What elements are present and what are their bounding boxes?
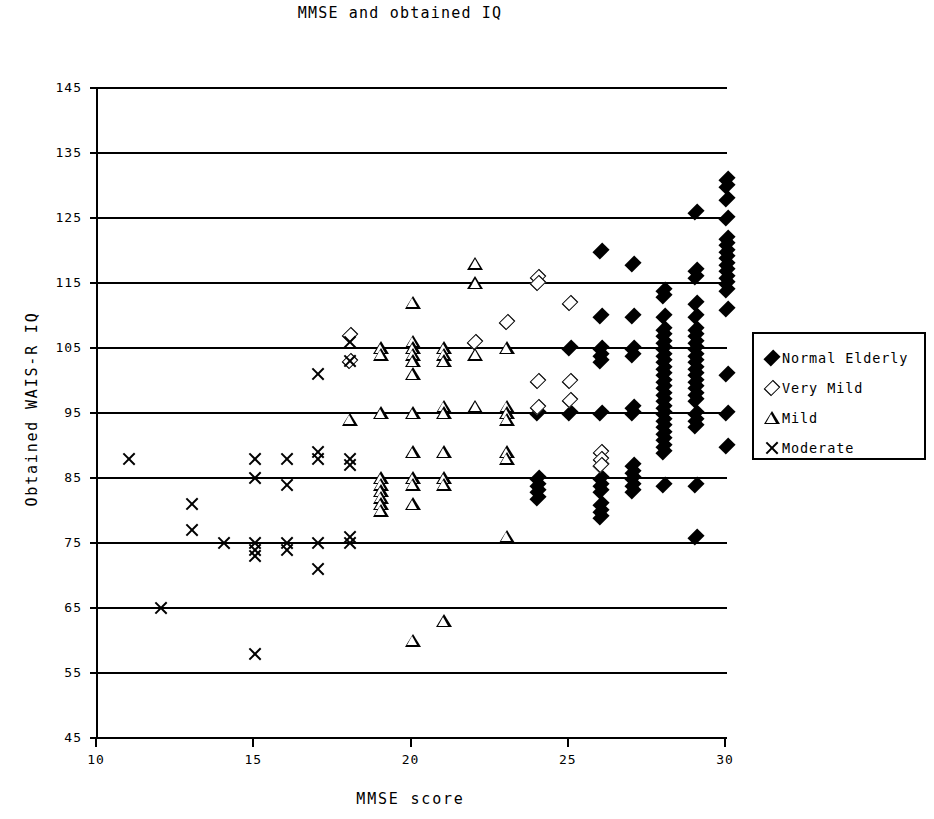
data-point (247, 646, 263, 662)
data-point (656, 320, 673, 337)
y-gridline (98, 737, 727, 739)
data-point (656, 443, 673, 460)
data-point (718, 229, 735, 246)
data-point (405, 445, 421, 458)
data-point (342, 413, 358, 426)
y-tick-mark (90, 477, 98, 479)
x-axis-title: MMSE score (96, 790, 725, 808)
chart-legend: Normal ElderlyVery MildMildModerate (752, 332, 926, 460)
data-point (436, 400, 452, 413)
data-point (279, 451, 295, 467)
y-tick-mark (90, 347, 98, 349)
data-point (593, 444, 610, 461)
data-point (373, 491, 389, 504)
y-gridline (98, 282, 727, 284)
data-point (405, 478, 421, 491)
y-tick-label: 135 (34, 145, 82, 160)
data-point (593, 242, 610, 259)
open-triangle-icon (763, 409, 781, 427)
legend-item-very-mild[interactable]: Very Mild (763, 373, 924, 403)
data-point (656, 326, 673, 343)
data-point (530, 372, 547, 389)
y-tick-label: 105 (34, 340, 82, 355)
data-point (593, 482, 610, 499)
data-point (656, 385, 673, 402)
data-point (184, 496, 200, 512)
data-point (593, 502, 610, 519)
data-point (342, 451, 358, 467)
data-point (656, 437, 673, 454)
data-point (405, 335, 421, 348)
x-tick-mark (567, 738, 569, 747)
data-point (342, 353, 358, 369)
data-point (467, 257, 483, 270)
x-tick-mark (95, 738, 97, 747)
data-point (656, 359, 673, 376)
legend-item-label: Very Mild (782, 380, 863, 396)
data-point (499, 400, 515, 413)
y-gridline (98, 477, 727, 479)
data-point (656, 287, 673, 304)
data-point (687, 320, 704, 337)
data-point (310, 444, 326, 460)
data-point (561, 294, 578, 311)
y-tick-mark (90, 217, 98, 219)
data-point (341, 353, 358, 370)
legend-item-normal-elderly[interactable]: Normal Elderly (763, 343, 924, 373)
data-point (687, 365, 704, 382)
data-point (247, 548, 263, 564)
data-point (718, 255, 735, 272)
data-point (718, 190, 735, 207)
data-point (499, 452, 515, 465)
y-gridline (98, 347, 727, 349)
data-point (373, 504, 389, 517)
data-point (687, 359, 704, 376)
chart-title: MMSE and obtained IQ (0, 4, 800, 22)
x-tick-label: 15 (233, 752, 273, 767)
data-point (624, 255, 641, 272)
data-point (373, 497, 389, 510)
data-point (718, 170, 735, 187)
legend-item-label: Moderate (782, 440, 854, 456)
y-gridline (98, 542, 727, 544)
y-tick-label: 75 (34, 535, 82, 550)
data-point (687, 372, 704, 389)
data-point (687, 352, 704, 369)
data-point (593, 456, 610, 473)
data-point (718, 365, 735, 382)
data-point (718, 300, 735, 317)
y-tick-mark (90, 412, 98, 414)
x-marker (764, 440, 780, 456)
legend-item-mild[interactable]: Mild (763, 403, 924, 433)
data-point (718, 248, 735, 265)
data-point (687, 261, 704, 278)
legend-item-label: Normal Elderly (782, 350, 908, 366)
x-tick-mark (724, 738, 726, 747)
data-point (184, 522, 200, 538)
y-tick-label: 115 (34, 275, 82, 290)
data-point (624, 456, 641, 473)
data-point (593, 450, 610, 467)
data-point (687, 326, 704, 343)
data-point (656, 365, 673, 382)
y-gridline (98, 412, 727, 414)
data-point (624, 307, 641, 324)
data-point (405, 354, 421, 367)
data-point (687, 378, 704, 395)
data-point (718, 242, 735, 259)
data-point (656, 307, 673, 324)
y-tick-mark (90, 282, 98, 284)
x-tick-mark (410, 738, 412, 747)
data-point (436, 348, 452, 361)
data-point (656, 391, 673, 408)
data-point (499, 530, 515, 543)
data-point (310, 366, 326, 382)
data-point (342, 457, 358, 473)
x-tick-label: 10 (76, 752, 116, 767)
y-tick-mark (90, 607, 98, 609)
y-tick-label: 145 (34, 80, 82, 95)
data-point (467, 400, 483, 413)
legend-item-moderate[interactable]: Moderate (763, 433, 924, 463)
data-point (436, 614, 452, 627)
y-gridline (98, 672, 727, 674)
